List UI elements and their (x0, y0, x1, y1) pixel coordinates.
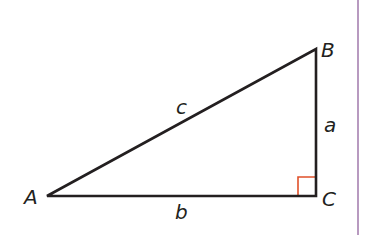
triangle (47, 49, 316, 196)
side-label-a: a (324, 113, 336, 137)
vertex-label-a: A (22, 185, 38, 209)
vertex-label-b: B (321, 38, 335, 62)
triangle-diagram: A B C c a b (0, 0, 367, 235)
side-label-b: b (175, 200, 188, 224)
vertex-label-c: C (322, 187, 336, 211)
right-angle-marker (298, 177, 316, 196)
side-label-c: c (176, 95, 187, 119)
